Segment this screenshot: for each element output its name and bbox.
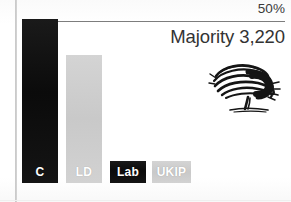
bar-conservative-label: C — [36, 166, 45, 183]
bar-liberal-democrat-label: LD — [76, 166, 92, 183]
oak-tree-icon — [208, 60, 282, 114]
bar-ukip-label: UKIP — [157, 166, 186, 183]
gridline-value-label: 50% — [258, 1, 285, 16]
bottom-divider — [0, 200, 291, 201]
bar-conservative-fill — [22, 19, 58, 183]
bar-labour[interactable]: Lab — [110, 161, 146, 183]
bar-labour-label: Lab — [117, 166, 139, 183]
election-bar-chart: 50% Majority 3,220 C LD Lab UKIP — [0, 0, 291, 202]
bar-conservative[interactable]: C — [22, 19, 58, 183]
bar-liberal-democrat-fill — [66, 55, 102, 183]
gridline-50-percent — [22, 21, 285, 22]
majority-annotation: Majority 3,220 — [170, 26, 285, 48]
bar-ukip[interactable]: UKIP — [152, 161, 191, 183]
y-axis-line — [15, 0, 17, 202]
bar-liberal-democrat[interactable]: LD — [66, 55, 102, 183]
